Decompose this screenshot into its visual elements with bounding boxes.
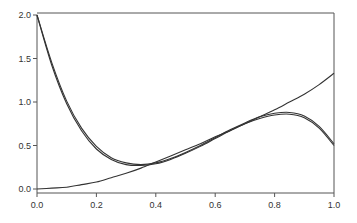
x-tick-label: 0.0 — [31, 200, 44, 210]
y-axis-ticks: 0.00.51.01.52.0 — [18, 10, 37, 194]
y-tick-label: 0.5 — [18, 141, 31, 151]
series-line-1 — [37, 15, 334, 166]
x-axis-ticks: 0.00.20.40.60.81.0 — [31, 193, 341, 210]
series-line-2 — [37, 15, 334, 165]
line-chart-svg: 0.00.20.40.60.81.0 0.00.51.01.52.0 — [0, 0, 357, 223]
plot-frame — [37, 13, 334, 193]
y-tick-label: 0.0 — [18, 184, 31, 194]
chart: 0.00.20.40.60.81.0 0.00.51.01.52.0 — [0, 0, 357, 223]
x-tick-label: 0.6 — [209, 200, 222, 210]
x-tick-label: 1.0 — [328, 200, 341, 210]
y-tick-label: 1.5 — [18, 54, 31, 64]
y-tick-label: 1.0 — [18, 97, 31, 107]
y-tick-label: 2.0 — [18, 10, 31, 20]
x-tick-label: 0.4 — [150, 200, 163, 210]
x-tick-label: 0.8 — [268, 200, 281, 210]
series-lines — [37, 15, 334, 189]
x-tick-label: 0.2 — [90, 200, 103, 210]
